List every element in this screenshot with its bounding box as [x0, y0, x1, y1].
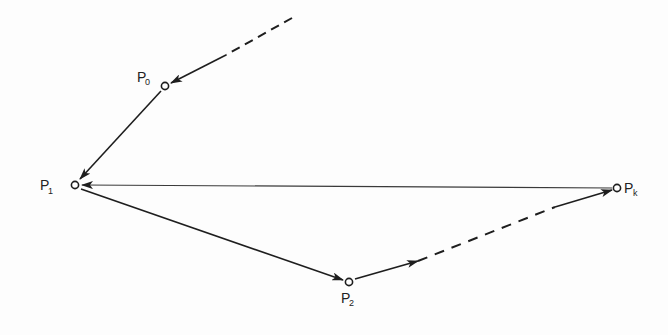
- edge-p2-to-pk-dashed: [418, 207, 555, 261]
- node-p2: [345, 278, 352, 285]
- edge-p1-to-p2: [81, 189, 343, 280]
- diagram-canvas: P 0 P 1 P 2 P k: [0, 0, 668, 335]
- label-pk-subscript: k: [633, 188, 638, 198]
- label-p2-subscript: 2: [349, 298, 354, 308]
- edge-p0-to-p1: [80, 91, 161, 179]
- edge-p2-to-pk-start: [355, 261, 418, 279]
- path-diagram: P 0 P 1 P 2 P k: [0, 0, 668, 335]
- edge-p2-to-pk-end: [555, 190, 612, 207]
- label-p0-subscript: 0: [145, 77, 150, 87]
- node-pk: [613, 184, 620, 191]
- node-p1: [71, 181, 78, 188]
- label-p1-subscript: 1: [48, 186, 53, 196]
- edge-incoming-to-p0: [171, 55, 226, 83]
- edge-incoming-dashed: [226, 18, 292, 55]
- label-pk: P: [624, 180, 633, 196]
- node-p0: [161, 82, 168, 89]
- edge-pk-to-p1: [82, 185, 612, 188]
